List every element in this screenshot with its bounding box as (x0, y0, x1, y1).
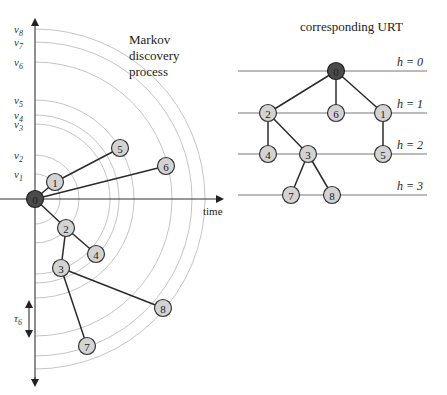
urt-node-7: 7 (283, 187, 300, 204)
level-label-h2: h = 2 (397, 138, 423, 152)
svg-text:2: 2 (63, 223, 69, 235)
markov-title: Markov discovery process (129, 32, 180, 79)
svg-text:5: 5 (117, 143, 123, 155)
urt-node-0: 0 (328, 63, 345, 80)
urt-node-1: 1 (375, 105, 392, 122)
svg-text:2: 2 (265, 108, 271, 120)
svg-text:5: 5 (380, 149, 386, 161)
svg-text:0: 0 (333, 66, 339, 78)
svg-text:6: 6 (163, 161, 169, 173)
tau-6-indicator: τ6 (14, 302, 29, 336)
label-v5: v5 (14, 94, 23, 109)
svg-text:1: 1 (380, 108, 386, 120)
svg-text:7: 7 (288, 190, 294, 202)
markov-node-1: 1 (47, 174, 64, 191)
svg-text:8: 8 (160, 303, 166, 315)
urt-edge-0-2 (268, 71, 336, 113)
markov-edge-1-5 (55, 148, 120, 182)
urt-node-4: 4 (260, 146, 277, 163)
markov-node-8: 8 (155, 300, 172, 317)
markov-title-line-3: process (129, 64, 168, 79)
urt-node-2: 2 (260, 105, 277, 122)
time-axis-label: time (203, 205, 223, 217)
markov-node-2: 2 (58, 220, 75, 237)
arc-labels: v1v2v3v4v5v6v7v8 (14, 23, 24, 183)
tau-label: τ6 (14, 312, 22, 327)
urt-node-5: 5 (375, 146, 392, 163)
urt-title: corresponding URT (300, 19, 403, 34)
markov-node-6: 6 (158, 158, 175, 175)
urt-node-3: 3 (300, 146, 317, 163)
svg-text:7: 7 (84, 341, 90, 353)
markov-node-5: 5 (112, 140, 129, 157)
urt-nodes: 026143578 (260, 63, 392, 204)
svg-text:3: 3 (58, 263, 64, 275)
level-label-h0: h = 0 (397, 55, 423, 69)
level-label-h3: h = 3 (397, 179, 423, 193)
markov-node-7: 7 (79, 338, 96, 355)
markov-node-3: 3 (53, 260, 70, 277)
markov-edge-3-7 (61, 268, 87, 346)
svg-text:6: 6 (333, 108, 339, 120)
svg-text:4: 4 (265, 149, 271, 161)
markov-node-4: 4 (88, 246, 105, 263)
markov-title-line-2: discovery (129, 48, 180, 63)
label-v1: v1 (14, 168, 23, 183)
svg-text:0: 0 (32, 194, 38, 206)
svg-text:4: 4 (93, 249, 99, 261)
label-v2: v2 (14, 149, 23, 164)
urt-node-6: 6 (328, 105, 345, 122)
urt-diagram: time v1v2v3v4v5v6v7v8 Markov discovery p… (0, 0, 447, 395)
urt-edge-0-1 (336, 71, 383, 113)
markov-title-line-1: Markov (129, 32, 171, 47)
svg-text:3: 3 (305, 149, 311, 161)
label-v6: v6 (14, 56, 23, 71)
markov-edge-3-8 (61, 268, 163, 308)
svg-text:1: 1 (52, 177, 58, 189)
level-label-h1: h = 1 (397, 97, 423, 111)
urt-edges (268, 71, 383, 195)
svg-text:8: 8 (329, 190, 335, 202)
label-v7: v7 (14, 36, 24, 51)
urt-node-8: 8 (324, 187, 341, 204)
markov-node-0: 0 (27, 191, 44, 208)
